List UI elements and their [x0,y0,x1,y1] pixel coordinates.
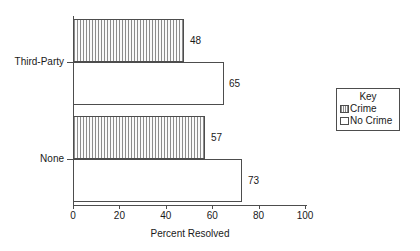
x-axis-tick-label-0: 0 [70,211,76,221]
y-axis-label-third-party: Third-Party [0,57,64,67]
x-axis-line [73,205,307,206]
bar-none-crime [73,116,205,159]
legend-swatch-no-crime-icon [340,117,349,125]
legend-item-no-crime: No Crime [340,115,396,127]
x-axis-tick-0 [73,205,74,209]
x-axis-tick-label-60: 60 [207,211,218,221]
y-axis-label-none: None [0,154,64,164]
bar-value-third-party-crime: 48 [190,36,201,46]
bar-none-no-crime [73,159,242,202]
x-axis-tick-80 [259,205,260,209]
bar-third-party-no-crime [73,62,224,105]
x-axis-tick-label-20: 20 [114,211,125,221]
legend: Key Crime No Crime [336,88,400,131]
legend-label-no-crime: No Crime [350,115,392,127]
x-axis-tick-label-80: 80 [253,211,264,221]
bar-chart: Third-Party None 48 65 57 73 0 20 40 60 … [0,0,420,251]
x-axis-tick-20 [119,205,120,209]
x-axis-tick-100 [305,205,306,209]
bar-value-none-no-crime: 73 [248,176,259,186]
bar-value-none-crime: 57 [211,133,222,143]
x-axis-tick-label-100: 100 [297,211,314,221]
x-axis-tick-label-40: 40 [160,211,171,221]
legend-label-crime: Crime [350,103,377,115]
legend-item-crime: Crime [340,103,396,115]
x-axis-title: Percent Resolved [73,229,307,239]
x-axis-tick-60 [212,205,213,209]
legend-swatch-crime-icon [340,105,349,113]
bar-third-party-crime [73,19,184,62]
legend-title: Key [340,91,396,103]
bar-value-third-party-no-crime: 65 [229,79,240,89]
x-axis-tick-40 [166,205,167,209]
